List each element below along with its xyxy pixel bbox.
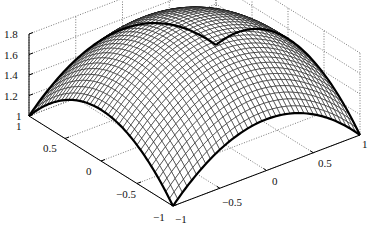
z-tick-label: 1.2 — [4, 91, 18, 102]
x-tick-label: 1 — [362, 139, 368, 150]
x-tick-label: −0.5 — [222, 197, 242, 208]
y-tick-label: −1 — [153, 212, 165, 223]
y-tick-label: −0.5 — [116, 189, 136, 200]
z-tick-label: 1.8 — [4, 29, 18, 40]
x-tick-label: −1 — [175, 214, 187, 225]
y-tick-label: 0 — [86, 166, 92, 177]
x-tick-label: 0.5 — [318, 158, 332, 169]
z-tick-label: 1.4 — [4, 70, 18, 81]
y-tick-label: 0.5 — [43, 143, 57, 154]
z-tick-label: 1.6 — [4, 50, 18, 61]
y-tick-label: 1 — [16, 121, 22, 132]
surface-plot — [0, 0, 373, 233]
x-tick-label: 0 — [272, 176, 278, 187]
